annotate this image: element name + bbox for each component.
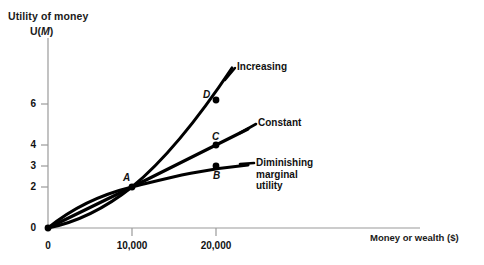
curve-label-constant: Constant <box>258 117 301 129</box>
curve-label-increasing: Increasing <box>237 61 287 73</box>
y-tick-label-2: 2 <box>18 181 36 192</box>
x-tick-label-20000: 20,000 <box>190 240 242 251</box>
y-tick-label-4: 4 <box>18 139 36 150</box>
curve-label-diminishing-line-3: utility <box>256 180 313 192</box>
utility-of-money-chart: Utility of money U(M) <box>0 0 484 265</box>
point-b-marker <box>213 163 220 170</box>
point-label-a: A <box>123 172 130 183</box>
y-axis-ticks <box>41 104 48 187</box>
x-axis-title: Money or wealth ($) <box>370 232 459 243</box>
y-tick-label-0: 0 <box>18 222 36 233</box>
x-axis-ticks <box>132 228 216 236</box>
y-tick-label-6: 6 <box>18 98 36 109</box>
leader-line-constant <box>240 124 256 133</box>
point-d-marker <box>213 97 220 104</box>
x-tick-label-0: 0 <box>40 240 56 251</box>
point-origin <box>45 225 52 232</box>
y-tick-label-3: 3 <box>18 160 36 171</box>
point-c-marker <box>213 142 220 149</box>
point-label-c: C <box>212 131 219 142</box>
leader-line-diminishing <box>240 163 254 164</box>
point-label-b: B <box>213 170 220 181</box>
curve-label-diminishing-marginal-utility: Diminishing marginal utility <box>256 157 313 192</box>
x-tick-label-10000: 10,000 <box>106 240 158 251</box>
point-label-d: D <box>203 89 210 100</box>
curve-label-diminishing-line-2: marginal <box>256 169 313 181</box>
curve-label-diminishing-line-1: Diminishing <box>256 157 313 169</box>
point-a-marker <box>129 184 136 191</box>
plot-area <box>0 0 484 265</box>
